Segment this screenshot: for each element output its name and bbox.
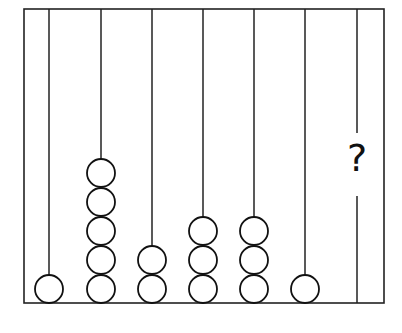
- bead: [240, 275, 268, 303]
- bead: [87, 159, 115, 187]
- bead: [291, 275, 319, 303]
- bead: [87, 275, 115, 303]
- bead: [138, 275, 166, 303]
- bead: [87, 246, 115, 274]
- bead: [189, 217, 217, 245]
- bead: [87, 188, 115, 216]
- abacus-diagram: ?: [0, 0, 402, 333]
- bead: [189, 275, 217, 303]
- bead: [240, 217, 268, 245]
- bead: [240, 246, 268, 274]
- bead: [87, 217, 115, 245]
- bead: [138, 246, 166, 274]
- abacus-drawing: [0, 0, 402, 333]
- bead: [35, 275, 63, 303]
- bead: [189, 246, 217, 274]
- unknown-value-question-mark: ?: [347, 139, 367, 177]
